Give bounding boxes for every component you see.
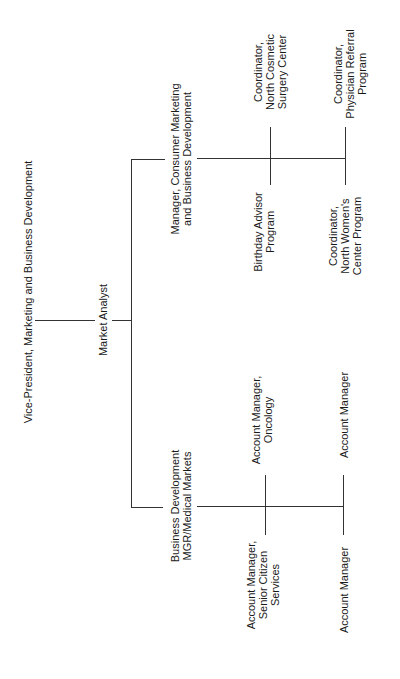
node-label-line: Coordinator, bbox=[252, 34, 264, 110]
node-label: Market Analyst bbox=[97, 284, 109, 356]
node-bizdev-medical-markets: Business Development MGR/Medical Markets bbox=[169, 450, 193, 563]
node-account-manager-oncology: Account Manager, Oncology bbox=[250, 376, 274, 465]
node-label-line: Business Development bbox=[169, 450, 181, 563]
node-account-manager-senior-citizen: Account Manager, Senior Citizen Services bbox=[245, 541, 281, 630]
node-label-line: Birthday Advisor bbox=[252, 192, 264, 271]
node-coordinator-womens-center: Coordinator, North Women's Center Progra… bbox=[327, 197, 363, 275]
connector-tick-4 bbox=[343, 475, 344, 535]
connector-to-consumer-manager bbox=[131, 159, 165, 160]
connector-tick-2 bbox=[345, 127, 346, 185]
connector-tick-1 bbox=[270, 127, 271, 185]
node-label-line: Account Manager bbox=[338, 372, 350, 458]
node-coordinator-cosmetic-surgery: Coordinator, North Cosmetic Surgery Cent… bbox=[252, 34, 288, 110]
node-label-line: Program bbox=[264, 192, 276, 271]
connector-to-bizdev-manager bbox=[131, 507, 163, 508]
connector-tick-3 bbox=[265, 475, 266, 535]
node-label-line: Account Manager bbox=[338, 547, 350, 633]
node-account-manager-left: Account Manager bbox=[338, 547, 350, 633]
node-label-line: Account Manager, bbox=[250, 376, 262, 465]
node-label-line: North Women's bbox=[339, 197, 351, 275]
node-market-analyst: Market Analyst bbox=[97, 284, 109, 356]
node-label-line: Manager, Consumer Marketing bbox=[169, 83, 181, 234]
connector-analyst-to-trunk bbox=[112, 320, 131, 321]
node-label-line: Program bbox=[356, 29, 368, 118]
connector-trunk bbox=[131, 159, 132, 508]
connector-bizdev-children bbox=[197, 506, 344, 507]
node-label-line: Coordinator, bbox=[332, 29, 344, 118]
node-label-line: and Business Development bbox=[181, 83, 193, 234]
node-label-line: MGR/Medical Markets bbox=[181, 450, 193, 563]
node-account-manager-right: Account Manager bbox=[338, 372, 350, 458]
node-label-line: Services bbox=[269, 541, 281, 630]
node-coordinator-physician-referral: Coordinator, Physician Referral Program bbox=[332, 29, 368, 118]
node-label-line: Account Manager, bbox=[245, 541, 257, 630]
node-label-line: Oncology bbox=[262, 376, 274, 465]
node-label-line: Coordinator, bbox=[327, 197, 339, 275]
node-manager-consumer-marketing: Manager, Consumer Marketing and Business… bbox=[169, 83, 193, 234]
node-label-line: Surgery Center bbox=[276, 34, 288, 110]
node-label: Vice-President, Marketing and Business D… bbox=[22, 161, 34, 424]
connector-consumer-children bbox=[197, 158, 346, 159]
node-label-line: Senior Citizen bbox=[257, 541, 269, 630]
node-label-line: North Cosmetic bbox=[264, 34, 276, 110]
node-label-line: Physician Referral bbox=[344, 29, 356, 118]
connector-vp-to-analyst bbox=[35, 320, 95, 321]
node-vice-president: Vice-President, Marketing and Business D… bbox=[22, 161, 34, 424]
node-birthday-advisor: Birthday Advisor Program bbox=[252, 192, 276, 271]
node-label-line: Center Program bbox=[351, 197, 363, 275]
